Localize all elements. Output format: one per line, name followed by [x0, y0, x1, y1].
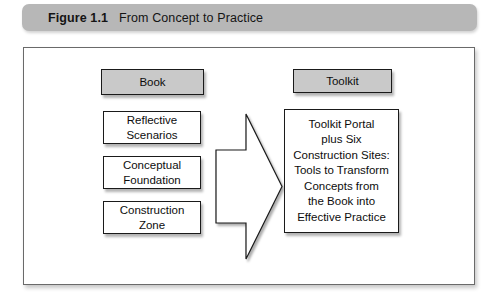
block-arrow-icon [216, 114, 284, 259]
node-construction-zone: Construction Zone [103, 201, 201, 234]
node-reflective-scenarios: Reflective Scenarios [103, 111, 201, 144]
figure-caption-text: Figure 1.1From Concept to Practice [48, 11, 263, 25]
figure-title-label: From Concept to Practice [119, 11, 263, 25]
node-book: Book [101, 69, 204, 95]
figure-frame: Book Toolkit Reflective Scenarios Concep… [23, 47, 475, 285]
figure-number-label: Figure 1.1 [48, 11, 108, 25]
node-outcome-toolkit-portal: Toolkit Portal plus Six Construction Sit… [284, 109, 399, 233]
node-toolkit: Toolkit [293, 69, 392, 93]
figure-caption-bar: Figure 1.1From Concept to Practice [22, 4, 477, 31]
node-conceptual-foundation: Conceptual Foundation [103, 156, 201, 189]
